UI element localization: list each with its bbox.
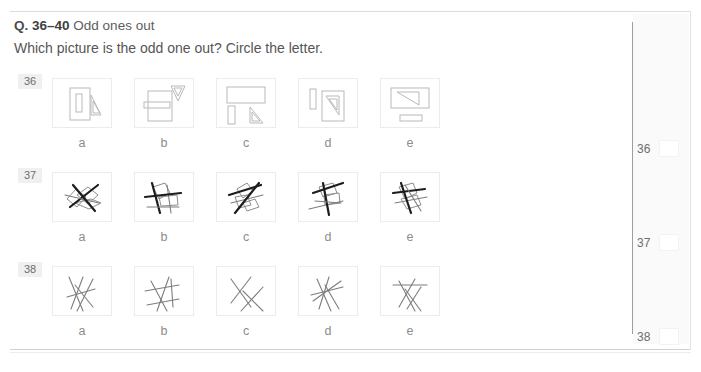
option-panels (52, 266, 532, 318)
answer-column-divider (632, 22, 633, 334)
figure-diagonal-polygon-chain-with-bold-cross-strokes (217, 173, 275, 221)
option-panel-36-e[interactable] (380, 78, 440, 128)
answer-column-background (633, 14, 689, 344)
figure-crossing-lines-with-top-horizontal-and-ticks (381, 267, 439, 315)
answer-number-37: 37 (637, 234, 650, 252)
answer-item-38: 38 (637, 328, 689, 346)
instruction-text: Which picture is the odd one out? Circle… (14, 40, 323, 56)
option-panel-37-c[interactable] (216, 172, 276, 222)
figure-star-like-cluster-of-crossing-lines (299, 267, 357, 315)
figure-wide-rectangle-with-diagonal-triangle-and-bar-below (381, 79, 439, 127)
answer-input-38[interactable] (659, 328, 679, 345)
answer-input-37[interactable] (659, 234, 679, 251)
option-panel-37-a[interactable] (52, 172, 112, 222)
option-letters: abcde (52, 136, 532, 152)
answer-input-36[interactable] (659, 140, 679, 157)
top-divider (10, 11, 691, 12)
worksheet-page: Q. 36–40 Odd ones out Which picture is t… (0, 0, 701, 372)
figure-upright-polygons-with-vertical-bold-strokes (135, 173, 193, 221)
question-title: Odd ones out (73, 18, 154, 33)
figure-five-crossing-straight-lines (53, 267, 111, 315)
figure-wide-rectangle-with-bar-and-triangle-below (217, 79, 275, 127)
figure-thin-bar-left-and-rectangle-with-triangle (299, 79, 357, 127)
answer-number-38: 38 (637, 328, 650, 346)
option-panel-36-c[interactable] (216, 78, 276, 128)
figure-polygons-with-bold-horizontal-and-diagonal-strokes (299, 173, 357, 221)
figure-x-shaped-crossing-line-pairs (217, 267, 275, 315)
option-letter-36-a[interactable]: a (51, 136, 113, 150)
bottom-divider (10, 349, 691, 350)
option-letter-37-a[interactable]: a (51, 230, 113, 244)
answer-number-36: 36 (637, 140, 650, 158)
option-panel-38-c[interactable] (216, 266, 276, 316)
option-letter-37-b[interactable]: b (133, 230, 195, 244)
figure-rectangle-with-horizontal-bar-and-flag-triangle (135, 79, 193, 127)
figure-upright-rectangle-with-inner-bar-and-small-triangle (53, 79, 111, 127)
option-panel-38-b[interactable] (134, 266, 194, 316)
option-letter-38-e[interactable]: e (379, 324, 441, 338)
option-letter-36-b[interactable]: b (133, 136, 195, 150)
bottom-divider-shadow (10, 352, 691, 353)
row-number-37: 37 (18, 168, 42, 183)
option-panels (52, 172, 532, 224)
right-edge-divider (690, 11, 691, 350)
question-heading: Q. 36–40 Odd ones out (14, 18, 154, 33)
option-panel-36-b[interactable] (134, 78, 194, 128)
figure-crossing-lines-with-two-horizontals (135, 267, 193, 315)
question-label: Q. (14, 18, 28, 33)
figure-angular-polygons-with-bold-horizontal-strokes (381, 173, 439, 221)
option-letter-38-a[interactable]: a (51, 324, 113, 338)
figure-tilted-quadrilaterals-with-bold-diagonal-strokes (53, 173, 111, 221)
option-letter-37-c[interactable]: c (215, 230, 277, 244)
question-range: 36–40 (32, 18, 70, 33)
option-panel-37-d[interactable] (298, 172, 358, 222)
option-letters: abcde (52, 324, 532, 340)
option-letter-36-c[interactable]: c (215, 136, 277, 150)
option-panel-38-a[interactable] (52, 266, 112, 316)
option-panel-37-e[interactable] (380, 172, 440, 222)
option-panels (52, 78, 532, 130)
answer-item-37: 37 (637, 234, 689, 252)
row-number-36: 36 (18, 74, 42, 89)
option-letter-36-e[interactable]: e (379, 136, 441, 150)
row-number-38: 38 (18, 262, 42, 277)
option-letter-36-d[interactable]: d (297, 136, 359, 150)
option-letters: abcde (52, 230, 532, 246)
option-panel-37-b[interactable] (134, 172, 194, 222)
option-letter-38-c[interactable]: c (215, 324, 277, 338)
option-letter-38-b[interactable]: b (133, 324, 195, 338)
option-panel-36-a[interactable] (52, 78, 112, 128)
option-letter-37-e[interactable]: e (379, 230, 441, 244)
option-letter-37-d[interactable]: d (297, 230, 359, 244)
option-panel-38-d[interactable] (298, 266, 358, 316)
answer-item-36: 36 (637, 140, 689, 158)
option-panel-38-e[interactable] (380, 266, 440, 316)
option-panel-36-d[interactable] (298, 78, 358, 128)
option-letter-38-d[interactable]: d (297, 324, 359, 338)
